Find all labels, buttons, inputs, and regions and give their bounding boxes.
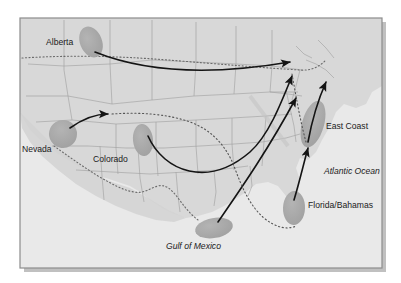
map-label-colorado: Colorado xyxy=(93,154,128,164)
map-label-atlantic-ocean: Atlantic Ocean xyxy=(323,166,380,176)
map-label-nevada: Nevada xyxy=(22,144,52,154)
map-label-florida-bahamas: Florida/Bahamas xyxy=(308,200,373,210)
map-body: Alberta Nevada Colorado East Coast Flori… xyxy=(20,18,382,268)
map-canvas: Alberta Nevada Colorado East Coast Flori… xyxy=(0,0,401,283)
map-label-east-coast: East Coast xyxy=(326,121,369,131)
map-figure: Alberta Nevada Colorado East Coast Flori… xyxy=(0,0,401,283)
map-label-alberta: Alberta xyxy=(46,37,73,47)
map-label-gulf-of-mexico: Gulf of Mexico xyxy=(166,241,221,251)
